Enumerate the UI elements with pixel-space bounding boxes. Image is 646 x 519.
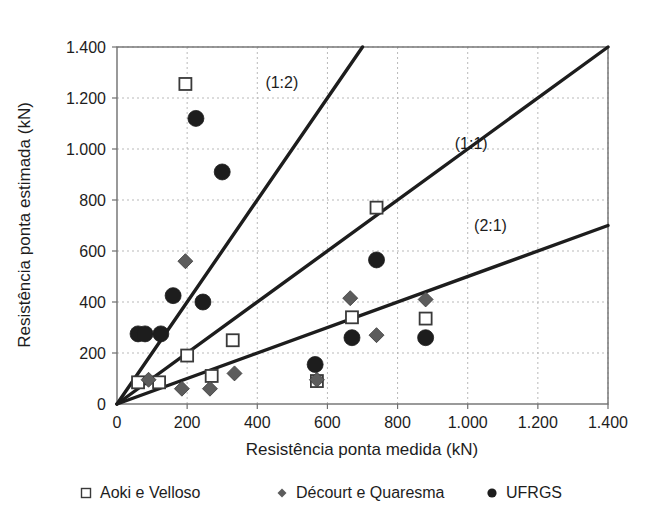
data-point [369,252,385,268]
x-tick-label: 200 [174,414,201,431]
data-point [346,311,358,323]
x-axis-title: Resistência ponta medida (kN) [246,440,478,459]
data-point [179,78,191,90]
data-point [344,330,360,346]
legend-label: Décourt e Quaresma [296,484,445,501]
data-point [181,350,193,362]
data-point [227,334,239,346]
x-tick-label: 1.200 [518,414,558,431]
x-tick-label: 800 [384,414,411,431]
x-tick-label: 1.000 [448,414,488,431]
data-point [137,326,153,342]
ratio-label-1-1: (1:1) [455,135,488,152]
data-point [165,288,181,304]
legend-label: Aoki e Velloso [100,484,201,501]
data-point [206,370,218,382]
data-point [420,313,432,325]
ratio-label-1-2: (1:2) [265,74,298,91]
data-point [307,356,323,372]
y-tick-label: 400 [79,294,106,311]
y-tick-label: 200 [79,345,106,362]
legend-label: UFRGS [506,484,562,501]
data-point [214,164,230,180]
y-tick-label: 1.400 [66,39,106,56]
legend-marker-open-square-icon [82,489,91,498]
ratio-label-2-1: (2:1) [474,217,507,234]
x-tick-label: 400 [244,414,271,431]
x-tick-label: 1.400 [588,414,628,431]
data-point [371,202,383,214]
y-axis-title: Resistência ponta estimada (kN) [15,102,34,348]
data-point [418,330,434,346]
y-tick-label: 0 [97,396,106,413]
x-tick-label: 600 [314,414,341,431]
y-tick-label: 1.000 [66,141,106,158]
data-point [153,326,169,342]
y-tick-label: 600 [79,243,106,260]
legend-item-aoki-e-velloso[interactable]: Aoki e Velloso [82,484,201,501]
legend-marker-circle-icon [487,488,496,497]
x-tick-label: 0 [113,414,122,431]
data-point [195,294,211,310]
chart-figure: (1:2)(1:1)(2:1) 02004006008001.0001.2001… [0,0,646,519]
y-tick-label: 1.200 [66,90,106,107]
legend-item-d-court-e-quaresma[interactable]: Décourt e Quaresma [278,484,445,501]
data-point [188,110,204,126]
y-tick-label: 800 [79,192,106,209]
scatter-plot: (1:2)(1:1)(2:1) 02004006008001.0001.2001… [0,0,646,519]
